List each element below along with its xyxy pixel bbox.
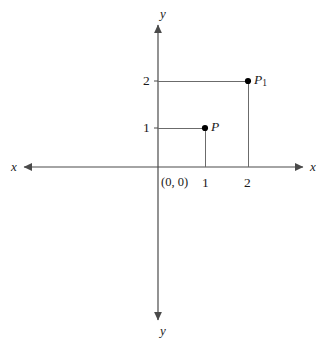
x-axis-label-left: x bbox=[11, 160, 17, 173]
y-axis-label-bottom: y bbox=[160, 324, 166, 337]
y-tick-label-2: 2 bbox=[143, 74, 150, 88]
data-point-P[interactable] bbox=[202, 125, 208, 131]
point-label-P1-text: P bbox=[254, 72, 262, 87]
x-axis-label-right: x bbox=[310, 160, 316, 173]
axes-and-lines-svg bbox=[0, 0, 326, 342]
point-label-P-text: P bbox=[211, 119, 219, 134]
point-label-P1-subscript: 1 bbox=[262, 78, 267, 88]
coordinate-plane-figure: y y x x 2 1 (0, 0) 1 2 P P1 bbox=[0, 0, 326, 342]
y-axis-label-top: y bbox=[160, 7, 166, 20]
y-tick-label-1: 1 bbox=[143, 121, 150, 135]
point-label-P: P bbox=[211, 120, 219, 134]
origin-label: (0, 0) bbox=[161, 176, 188, 189]
point-label-P1: P1 bbox=[254, 73, 267, 87]
x-tick-label-1: 1 bbox=[202, 176, 209, 190]
x-tick-label-2: 2 bbox=[244, 176, 251, 190]
data-point-P1[interactable] bbox=[245, 78, 251, 84]
